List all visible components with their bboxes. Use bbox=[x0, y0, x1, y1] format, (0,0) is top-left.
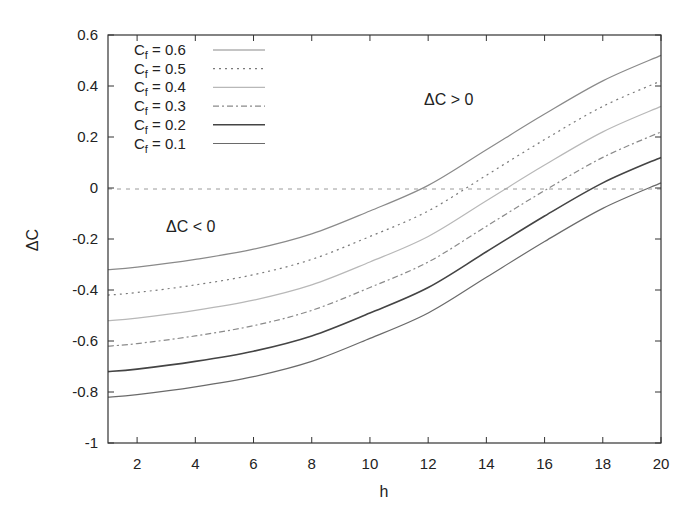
series-line-4 bbox=[108, 132, 661, 346]
series-line-3 bbox=[108, 106, 661, 320]
y-tick-label: -0.4 bbox=[72, 281, 98, 298]
legend-item: Cf = 0.3 bbox=[134, 97, 265, 117]
x-tick-label: 8 bbox=[308, 455, 316, 472]
series-line-1 bbox=[108, 55, 661, 269]
legend-label: Cf = 0.4 bbox=[134, 78, 186, 98]
legend-label: Cf = 0.5 bbox=[134, 60, 186, 80]
y-tick-label: -1 bbox=[85, 434, 98, 451]
y-tick-label: 0.6 bbox=[77, 26, 98, 43]
y-axis-title: ΔC bbox=[24, 229, 41, 251]
legend-item: Cf = 0.1 bbox=[134, 135, 265, 155]
x-axis-title: h bbox=[380, 483, 389, 500]
plot-frame bbox=[108, 35, 661, 443]
x-tick-label: 16 bbox=[536, 455, 553, 472]
legend-item: Cf = 0.4 bbox=[134, 78, 265, 98]
legend-item: Cf = 0.6 bbox=[134, 41, 265, 61]
x-tick-label: 6 bbox=[249, 455, 257, 472]
x-tick-label: 10 bbox=[362, 455, 379, 472]
legend: Cf = 0.6Cf = 0.5Cf = 0.4Cf = 0.3Cf = 0.2… bbox=[134, 41, 265, 155]
x-tick-label: 4 bbox=[191, 455, 199, 472]
legend-item: Cf = 0.5 bbox=[134, 60, 265, 80]
annotation-negative: ΔC < 0 bbox=[166, 218, 215, 235]
legend-label: Cf = 0.2 bbox=[134, 116, 186, 136]
y-tick-label: 0.4 bbox=[77, 77, 98, 94]
y-tick-label: -0.2 bbox=[72, 230, 98, 247]
series-line-5 bbox=[108, 157, 661, 371]
legend-label: Cf = 0.1 bbox=[134, 135, 186, 155]
y-tick-label: -0.8 bbox=[72, 383, 98, 400]
y-tick-label: 0.2 bbox=[77, 128, 98, 145]
x-tick-label: 2 bbox=[133, 455, 141, 472]
x-tick-label: 12 bbox=[420, 455, 437, 472]
x-tick-label: 20 bbox=[653, 455, 670, 472]
legend-item: Cf = 0.2 bbox=[134, 116, 265, 136]
legend-label: Cf = 0.3 bbox=[134, 97, 186, 117]
x-tick-label: 18 bbox=[594, 455, 611, 472]
x-tick-label: 14 bbox=[478, 455, 495, 472]
y-tick-label: 0 bbox=[90, 179, 98, 196]
y-tick-label: -0.6 bbox=[72, 332, 98, 349]
series-line-2 bbox=[108, 81, 661, 295]
x-axis-ticks: 2468101214161820 bbox=[133, 35, 669, 472]
chart: 0.60.40.20-0.2-0.4-0.6-0.8-1 24681012141… bbox=[0, 0, 699, 523]
legend-label: Cf = 0.6 bbox=[134, 41, 186, 61]
series-line-6 bbox=[108, 183, 661, 397]
annotation-positive: ΔC > 0 bbox=[424, 91, 473, 108]
